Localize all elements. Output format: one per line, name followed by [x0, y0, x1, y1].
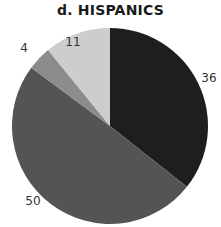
pie-chart: d. HISPANICS 36 50 4 11 — [0, 0, 221, 227]
slice-label-4: 11 — [65, 35, 80, 49]
pie-plot-area — [0, 0, 221, 227]
slice-label-1: 36 — [201, 71, 216, 85]
slice-label-2: 50 — [25, 194, 40, 208]
slice-label-3: 4 — [20, 41, 28, 55]
